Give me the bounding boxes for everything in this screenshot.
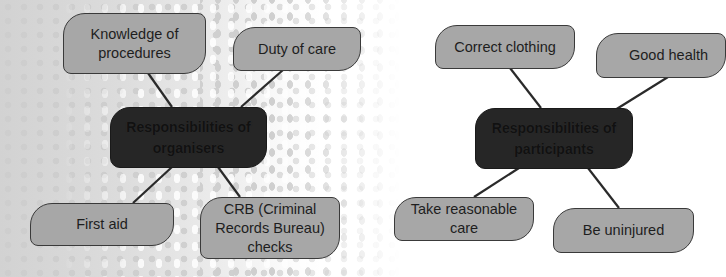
connector-crb: [218, 167, 240, 197]
node-label: CRB (Criminal Records Bureau) checks: [215, 200, 325, 257]
node-first-aid: First aid: [30, 203, 174, 246]
node-label: Duty of care: [258, 40, 336, 59]
center-node-participants: Responsibilities of participants: [475, 108, 633, 169]
center-label: Responsibilities of participants: [492, 118, 616, 160]
connector-knowledge: [148, 73, 172, 107]
node-label: Correct clothing: [454, 38, 556, 57]
connector-first-aid: [133, 167, 172, 203]
node-label: First aid: [76, 215, 128, 234]
node-label: Take reasonable care: [411, 200, 517, 238]
node-good-health: Good health: [596, 33, 726, 78]
center-node-organisers: Responsibilities of organisers: [110, 107, 267, 168]
node-label: Good health: [629, 46, 708, 65]
connector-duty-of-care: [241, 70, 283, 107]
node-duty-of-care: Duty of care: [233, 27, 361, 71]
connector-correct-clothing: [510, 68, 541, 108]
node-knowledge-of-procedures: Knowledge of procedures: [63, 13, 206, 74]
connector-take-reasonable-care: [474, 168, 519, 197]
center-label: Responsibilities of organisers: [126, 117, 250, 159]
node-label: Be uninjured: [583, 221, 664, 240]
connector-be-uninjured: [588, 168, 619, 208]
node-correct-clothing: Correct clothing: [435, 25, 575, 69]
node-crb-checks: CRB (Criminal Records Bureau) checks: [200, 197, 340, 259]
node-take-reasonable-care: Take reasonable care: [394, 197, 534, 241]
connector-good-health: [615, 77, 668, 110]
node-label: Knowledge of procedures: [91, 25, 179, 63]
node-be-uninjured: Be uninjured: [553, 208, 694, 253]
